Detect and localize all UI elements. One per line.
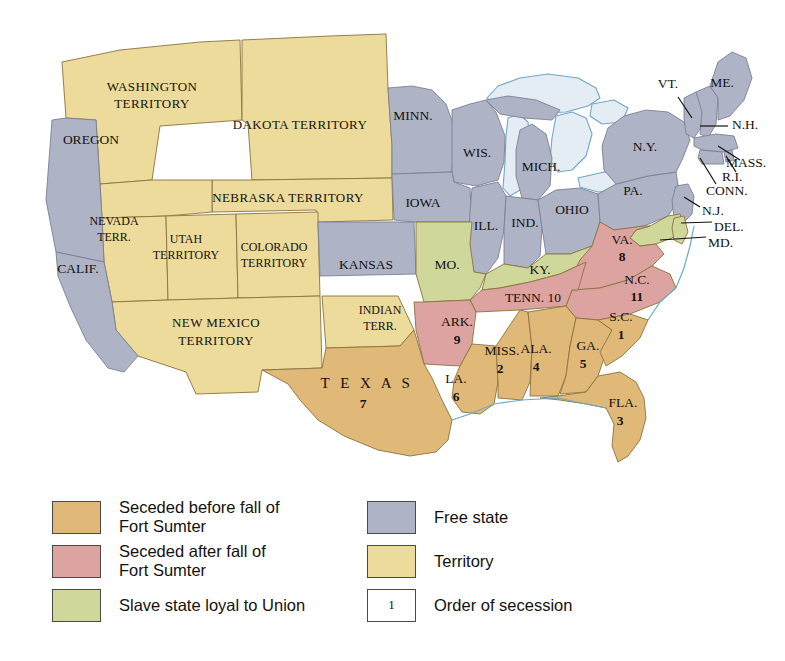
indiana-shape [504, 196, 542, 268]
legend-column-right: Free state Territory 1 Order of secessio… [367, 496, 707, 628]
label-ohio: OHIO [555, 202, 589, 217]
label-california: CALIF. [57, 261, 98, 276]
label-pennsylvania: PA. [623, 183, 642, 198]
montana-idaho-part [100, 180, 212, 218]
legend-label-free-state: Free state [434, 508, 508, 527]
label-michigan: MICH. [522, 159, 561, 174]
label-new-york: N.Y. [633, 139, 658, 154]
label-delaware: DEL. [714, 219, 744, 234]
label-colorado-territory-line1: COLORADO [241, 240, 308, 254]
label-new-mexico-territory-line2: TERRITORY [178, 333, 254, 348]
label-massachusetts: MASS. [726, 155, 766, 170]
legend-item-order-of-secession: 1 Order of secession [367, 584, 707, 626]
legend-item-seceded-after: Seceded after fall of Fort Sumter [52, 540, 382, 582]
label-wisconsin: WIS. [463, 145, 491, 160]
label-north-carolina: N.C. [624, 272, 650, 287]
label-iowa: IOWA [405, 195, 440, 210]
map-legend: Seceded before fall of Fort Sumter Seced… [52, 496, 752, 626]
legend-swatch-seceded-after [52, 545, 101, 578]
label-texas: T E X A S [321, 375, 414, 391]
label-virginia: VA. [611, 232, 632, 247]
label-louisiana-order: 6 [453, 389, 460, 404]
label-alabama: ALA. [520, 341, 551, 356]
label-arkansas: ARK. [441, 314, 473, 329]
label-south-carolina: S.C. [609, 309, 632, 324]
label-illinois: ILL. [474, 218, 498, 233]
legend-column-left: Seceded before fall of Fort Sumter Seced… [52, 496, 382, 628]
label-arkansas-order: 9 [454, 332, 461, 347]
label-new-hampshire: N.H. [732, 117, 758, 132]
label-tennessee: TENN. 10 [505, 290, 561, 305]
secession-map-figure: WASHINGTON TERRITORY OREGON DAKOTA TERRI… [0, 0, 785, 661]
label-utah-territory-line1: UTAH [170, 232, 203, 246]
label-alabama-order: 4 [533, 359, 540, 374]
label-rhode-island: R.I. [722, 169, 742, 184]
legend-item-seceded-before: Seceded before fall of Fort Sumter [52, 496, 382, 538]
legend-swatch-order-of-secession: 1 [367, 589, 416, 622]
label-nevada-territory-line2: TERR. [97, 230, 131, 244]
label-new-mexico-territory-line1: NEW MEXICO [172, 315, 260, 330]
label-mississippi: MISS. [485, 343, 520, 358]
label-mississippi-order: 2 [497, 361, 504, 376]
label-kentucky: KY. [529, 262, 550, 277]
legend-item-territory: Territory [367, 540, 707, 582]
label-nevada-territory-line1: NEVADA [89, 214, 138, 228]
label-missouri: MO. [434, 257, 459, 272]
label-vermont: VT. [658, 76, 678, 91]
legend-swatch-seceded-before [52, 501, 101, 534]
label-florida: FLA. [609, 395, 638, 410]
label-oregon: OREGON [63, 132, 119, 147]
label-virginia-order: 8 [619, 249, 626, 264]
ohio-shape [538, 188, 600, 254]
minnesota-shape [388, 86, 454, 174]
label-utah-territory-line2: TERRITORY [153, 248, 220, 262]
legend-swatch-free-state [367, 501, 416, 534]
wisconsin-shape [452, 100, 505, 186]
label-dakota-territory: DAKOTA TERRITORY [233, 117, 368, 132]
legend-item-free-state: Free state [367, 496, 707, 538]
label-washington-territory-line1: WASHINGTON [107, 79, 198, 94]
dakota-territory-shape [242, 34, 392, 180]
legend-label-seceded-before: Seceded before fall of Fort Sumter [119, 498, 280, 536]
label-texas-order: 7 [360, 396, 367, 411]
label-louisiana: LA. [445, 371, 466, 386]
legend-label-loyal-slave-state: Slave state loyal to Union [119, 596, 305, 615]
label-kansas: KANSAS [339, 257, 393, 272]
label-connecticut: CONN. [706, 183, 748, 198]
label-maine: ME. [710, 75, 734, 90]
legend-swatch-territory [367, 545, 416, 578]
legend-item-loyal-slave-state: Slave state loyal to Union [52, 584, 382, 626]
label-south-carolina-order: 1 [618, 327, 625, 342]
legend-label-order-of-secession: Order of secession [434, 596, 572, 615]
label-georgia-order: 5 [580, 356, 587, 371]
label-maryland: MD. [708, 235, 733, 250]
label-new-jersey: N.J. [702, 203, 724, 218]
label-indian-territory-line1: INDIAN [359, 303, 402, 317]
label-indiana: IND. [511, 215, 538, 230]
legend-label-seceded-after: Seceded after fall of Fort Sumter [119, 542, 266, 580]
label-florida-order: 3 [617, 413, 624, 428]
label-washington-territory-line2: TERRITORY [114, 96, 190, 111]
label-nebraska-territory: NEBRASKA TERRITORY [212, 190, 364, 205]
massachusetts-shape [694, 134, 738, 152]
label-georgia: GA. [577, 338, 600, 353]
label-indian-territory-line2: TERR. [363, 319, 397, 333]
label-north-carolina-order: 11 [631, 289, 644, 304]
legend-swatch-loyal-slave-state [52, 589, 101, 622]
label-colorado-territory-line2: TERRITORY [241, 256, 308, 270]
label-minnesota: MINN. [393, 108, 432, 123]
legend-label-territory: Territory [434, 552, 494, 571]
